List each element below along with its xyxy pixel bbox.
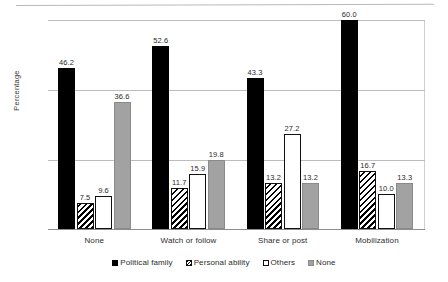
bar[interactable]	[265, 183, 282, 229]
bar[interactable]	[171, 188, 188, 229]
legend-label: Personal ability	[194, 258, 250, 267]
bar-value-label: 19.8	[209, 150, 224, 159]
bar[interactable]	[359, 171, 376, 229]
legend: Political familyPersonal abilityOthersNo…	[0, 258, 448, 267]
bar[interactable]	[378, 194, 395, 229]
legend-swatch-icon	[308, 260, 314, 266]
legend-label: Others	[271, 258, 296, 267]
bar-slot: 11.7	[171, 20, 188, 230]
bar-slot: 19.8	[208, 20, 225, 230]
bar[interactable]	[396, 183, 413, 229]
bar[interactable]	[284, 134, 301, 229]
bar[interactable]	[341, 20, 358, 229]
legend-swatch-icon	[112, 260, 118, 266]
bar-group: 52.611.715.919.8	[142, 20, 236, 230]
bar-group: 60.016.710.013.3	[331, 20, 425, 230]
bar-value-label: 7.5	[80, 193, 91, 202]
category-label: None	[44, 236, 144, 245]
bar-slot: 52.6	[152, 20, 169, 230]
bar-value-label: 16.7	[360, 161, 375, 170]
bar-value-label: 15.9	[190, 164, 205, 173]
bar-value-label: 11.7	[172, 178, 186, 187]
legend-item[interactable]: Personal ability	[186, 258, 250, 267]
category-label: Share or post	[233, 236, 333, 245]
bar[interactable]	[114, 102, 131, 229]
bar-value-label: 13.2	[266, 173, 281, 182]
legend-label: None	[316, 258, 336, 267]
bar-slot: 10.0	[378, 20, 395, 230]
bar-group: 46.27.59.636.6	[48, 20, 142, 230]
bar-slot: 7.5	[77, 20, 94, 230]
bar-value-label: 52.6	[153, 36, 168, 45]
bar-slot: 15.9	[189, 20, 206, 230]
bar[interactable]	[302, 183, 319, 229]
bar[interactable]	[77, 203, 94, 229]
bar[interactable]	[152, 46, 169, 229]
bar-value-label: 13.2	[303, 173, 318, 182]
bar-slot: 46.2	[58, 20, 75, 230]
bar-slot: 13.2	[302, 20, 319, 230]
legend-swatch-icon	[186, 260, 192, 266]
bar[interactable]	[247, 78, 264, 229]
bar-slot: 9.6	[95, 20, 112, 230]
plot-area: 46.27.59.636.652.611.715.919.843.313.227…	[48, 20, 425, 230]
bar-chart: Percentage 60 40 20 0 46.27.59.636.652.6…	[0, 0, 448, 282]
legend-label: Political family	[120, 258, 172, 267]
bar-value-label: 43.3	[248, 68, 263, 77]
bar-slot: 27.2	[284, 20, 301, 230]
bar-value-label: 13.3	[397, 173, 412, 182]
category-label: Watch or follow	[139, 236, 239, 245]
bar-slot: 60.0	[341, 20, 358, 230]
bar-slot: 36.6	[114, 20, 131, 230]
bar-value-label: 60.0	[342, 10, 357, 19]
bar-slot: 43.3	[247, 20, 264, 230]
bar-slot: 13.2	[265, 20, 282, 230]
bar[interactable]	[58, 68, 75, 229]
bar-slot: 13.3	[396, 20, 413, 230]
bar-value-label: 10.0	[379, 184, 394, 193]
category-label: Mobilization	[327, 236, 427, 245]
legend-item[interactable]: Political family	[112, 258, 172, 267]
legend-item[interactable]: None	[308, 258, 336, 267]
legend-swatch-icon	[263, 260, 269, 266]
bar-value-label: 9.6	[98, 186, 109, 195]
bar-value-label: 27.2	[285, 124, 300, 133]
bar-group: 43.313.227.213.2	[237, 20, 331, 230]
y-axis-title: Percentage	[12, 70, 21, 110]
bar-value-label: 36.6	[115, 92, 130, 101]
page-top-rule	[16, 4, 434, 6]
bar-value-label: 46.2	[59, 58, 74, 67]
bar-slot: 16.7	[359, 20, 376, 230]
legend-item[interactable]: Others	[263, 258, 296, 267]
bar[interactable]	[95, 196, 112, 229]
bar[interactable]	[208, 160, 225, 229]
bar[interactable]	[189, 174, 206, 229]
